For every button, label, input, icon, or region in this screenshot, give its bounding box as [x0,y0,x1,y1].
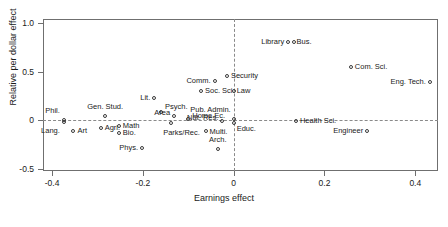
x-tick [143,171,144,176]
data-point [71,129,75,133]
data-point [204,129,208,133]
data-point [213,79,217,83]
data-point-label: Parks/Rec. [163,129,200,137]
y-axis-title: Relative per dollar effect [8,0,18,127]
data-point [220,119,224,123]
data-point-label: Pub. Admin. [190,106,230,114]
data-point-label: Library [261,39,284,47]
data-point [169,121,173,125]
x-tick-label: 0 [231,178,236,188]
data-point-label: Phil. [45,108,60,116]
data-point-label: Eng. Tech. [391,78,426,86]
data-point-label: Health Sci. [300,118,336,126]
data-point [152,96,156,100]
data-point [62,120,66,124]
data-point [103,114,107,118]
y-tick-label: 0 [29,115,34,125]
data-point-label: Engineer [333,127,363,135]
data-point [172,114,176,118]
data-point [225,74,229,78]
data-point [294,119,298,123]
y-tick [38,23,43,24]
y-tick [38,120,43,121]
data-point-label: Educ. [237,125,256,133]
data-point [428,80,432,84]
y-tick-label: 1.0 [22,18,34,28]
data-point [199,89,203,93]
data-point-label: Soc. Sci. [205,87,235,95]
data-point [365,129,369,133]
x-tick [52,171,53,176]
y-tick [38,169,43,170]
data-point-label: Nat. Res. [187,114,218,122]
data-point-label: Phys. [119,144,138,152]
x-tick-label: -0.2 [136,178,151,188]
scatter-plot-figure: -0.500.51.0 -0.4-0.200.20.4 Phil.Lang.Ar… [0,0,448,227]
data-point-label: Bio. [123,130,136,138]
data-point-label: Area [154,109,170,117]
data-point-label: Com. Sci. [355,63,388,71]
data-point [349,65,353,69]
x-tick-label: 0.2 [319,178,331,188]
data-point [117,131,121,135]
x-tick [234,171,235,176]
x-tick-label: 0.4 [409,178,421,188]
data-point-label: Lang. [41,127,60,135]
x-tick-label: -0.4 [45,178,60,188]
data-point-label: Art [77,127,87,135]
data-point-label: Bus. [297,39,312,47]
data-point-label: Lit. [140,94,150,102]
data-point [232,89,236,93]
data-point-label: Security [231,73,258,81]
data-point [286,40,290,44]
data-point [99,126,103,130]
data-point [292,40,296,44]
y-tick-label: -0.5 [19,164,34,174]
y-tick [38,72,43,73]
data-point-label: Arch. [209,136,227,144]
data-point-label: Gen. Stud. [87,103,123,111]
x-tick [324,171,325,176]
data-point [117,124,121,128]
data-point-label: Comm. [186,77,210,85]
data-point [232,121,236,125]
data-point [216,147,220,151]
zero-reference-line-horizontal [43,120,438,121]
plot-area-frame [43,19,438,171]
data-point-label: Law [237,87,251,95]
data-point [140,146,144,150]
x-tick [415,171,416,176]
x-axis-title: Earnings effect [0,193,448,203]
y-tick-label: 0.5 [22,67,34,77]
